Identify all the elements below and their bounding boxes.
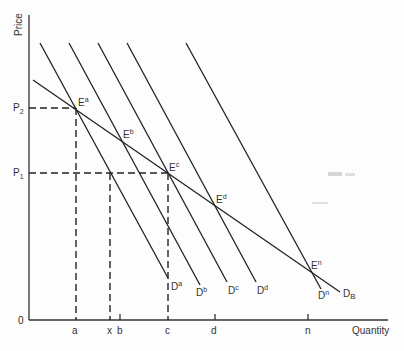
x-axis-label: Quantity [352,325,389,336]
origin-label: 0 [18,315,24,326]
bleed-through-mark [312,202,328,204]
equilibrium-label-a: Ea [78,96,89,108]
demand-curve-c [98,43,227,282]
demand-curve-n [186,43,321,289]
x-tick-b: b [117,325,123,336]
equilibrium-label-n: En [311,259,322,271]
demand-label-a: Da [171,280,182,292]
demand-label-d: Dd [257,284,268,296]
demand-curve-d [127,43,256,282]
demand-curve-b [69,43,200,285]
x-tick-a: a [72,325,78,336]
demand-label-b: Db [196,286,207,298]
equilibrium-label-d: Ed [216,193,227,205]
demand-label-n: Dn [318,289,329,301]
equilibrium-label-c: Ec [169,161,180,173]
demand-diagram: Price 0 P2 P1 a x b c d n Quantity Ea Eb… [0,0,404,351]
p1-label: P1 [13,167,24,180]
x-tick-d: d [211,325,217,336]
y-axis-label: Price [13,13,24,36]
bleed-through-mark [328,172,342,176]
p2-label: P2 [13,102,24,115]
bleed-through-mark [345,173,355,176]
x-tick-x: x [107,325,112,336]
x-tick-n: n [305,325,311,336]
diagram-svg: Price 0 P2 P1 a x b c d n Quantity Ea Eb… [0,0,404,351]
x-tick-c: c [165,325,170,336]
demand-label-bandwagon: DB [343,288,356,301]
demand-label-c: Dc [228,284,239,296]
equilibrium-label-b: Eb [123,128,134,140]
